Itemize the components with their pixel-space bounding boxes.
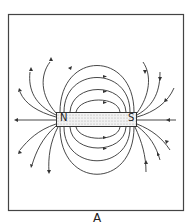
bar-magnet xyxy=(57,113,137,127)
magnetic-field-diagram xyxy=(0,0,194,224)
south-pole-label: S xyxy=(128,112,134,123)
north-pole-label: N xyxy=(60,112,67,123)
figure-caption: A xyxy=(93,211,101,224)
